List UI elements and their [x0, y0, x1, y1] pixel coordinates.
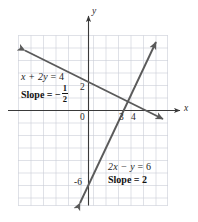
y-tick-label-neg6: -6	[74, 178, 82, 188]
graph-figure: x y 0 2 -6 3 4 x + 2y = 4 Slope = −12 2x…	[0, 0, 198, 222]
equation-line-2-rhs: 6	[146, 161, 151, 172]
slope-line-1-fraction: 12	[62, 84, 68, 104]
equation-line-2-eq: =	[138, 161, 144, 172]
slope-line-1-sign: −	[55, 89, 61, 100]
slope-line-2-word: Slope	[108, 174, 131, 185]
slope-line-1-word: Slope	[21, 89, 44, 100]
y-axis-label: y	[92, 7, 96, 17]
y-tick-label-2: 2	[80, 83, 85, 93]
slope-line-1: Slope = −12	[21, 84, 68, 104]
slope-line-1-eq: =	[47, 89, 53, 100]
slope-line-1-numerator: 1	[62, 84, 68, 94]
x-axis-label: x	[184, 104, 188, 114]
origin-tick-label: 0	[80, 113, 85, 123]
coordinate-plane	[0, 0, 198, 222]
slope-line-2-eq: =	[134, 174, 140, 185]
equation-line-2-lhs: 2x − y	[108, 161, 135, 172]
equation-line-1-lhs: x + 2y	[21, 71, 48, 82]
equation-line-1: x + 2y = 4	[21, 71, 68, 82]
slope-line-1-denominator: 2	[62, 94, 68, 103]
slope-line-2-value: 2	[142, 174, 147, 185]
equation-line-1-rhs: 4	[59, 71, 64, 82]
annotation-line-2: 2x − y = 6 Slope = 2	[108, 161, 151, 185]
x-tick-label-3: 3	[119, 113, 124, 123]
equation-line-1-eq: =	[51, 71, 57, 82]
annotation-line-1: x + 2y = 4 Slope = −12	[21, 71, 68, 104]
equation-line-2: 2x − y = 6	[108, 161, 151, 172]
x-tick-label-4: 4	[131, 113, 136, 123]
slope-line-2: Slope = 2	[108, 174, 151, 185]
